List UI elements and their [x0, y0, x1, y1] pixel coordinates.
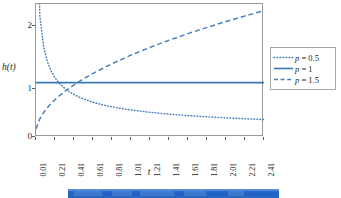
x-tick-mark	[168, 137, 169, 140]
y-axis-label: h(t)	[2, 62, 16, 72]
titlebar-segment	[184, 191, 206, 196]
legend-item-1[interactable]: p = 1	[273, 63, 332, 74]
x-axis-label-text: t	[148, 167, 151, 177]
y-axis-label-paren-close: )	[13, 62, 16, 72]
x-axis-label: t	[35, 167, 263, 177]
legend-label-2-value: = 1.5	[299, 75, 319, 85]
titlebar-segment	[140, 191, 174, 196]
curve-p-0point5	[36, 4, 264, 120]
legend-swatch-dashed-icon	[273, 75, 294, 84]
x-tick-mark	[206, 137, 207, 140]
titlebar-segment	[74, 191, 102, 196]
plot-curves	[36, 4, 264, 137]
titlebar-segment	[112, 191, 132, 196]
titlebar-segment	[228, 191, 244, 196]
legend-label-1: p = 1	[295, 64, 313, 74]
x-tick-label: 2.41	[267, 163, 276, 177]
legend-label-1-value: = 1	[299, 64, 312, 74]
window-titlebar-strip[interactable]	[68, 189, 279, 198]
legend-item-0[interactable]: p = 0.5	[273, 52, 332, 63]
plot-area	[35, 3, 263, 136]
x-tick-mark	[244, 137, 245, 140]
x-tick-mark	[73, 137, 74, 140]
x-tick-mark	[149, 137, 150, 140]
legend-label-0: p = 0.5	[295, 53, 319, 63]
x-tick-mark	[54, 137, 55, 140]
x-tick-mark	[225, 137, 226, 140]
y-tick-label-0: 0	[12, 132, 32, 141]
y-tick-label-1: 1	[12, 84, 32, 93]
chart-legend: p = 0.5 p = 1 p = 1.5	[270, 47, 336, 90]
legend-label-2: p = 1.5	[295, 75, 319, 85]
curve-p-1point5	[36, 11, 264, 129]
x-tick-mark	[263, 137, 264, 140]
y-tick-label-2: 2	[12, 21, 32, 30]
legend-item-2[interactable]: p = 1.5	[273, 74, 332, 85]
x-tick-mark	[92, 137, 93, 140]
x-tick-mark	[130, 137, 131, 140]
legend-label-0-value: = 0.5	[299, 53, 319, 63]
legend-swatch-dotted-icon	[273, 53, 294, 62]
chart-figure: h(t) 0 1 2 0.010.210.410.610.811.011.211…	[0, 0, 341, 198]
x-tick-mark	[35, 137, 36, 140]
x-tick-mark	[111, 137, 112, 140]
legend-swatch-solid-icon	[273, 64, 294, 73]
x-tick-mark	[187, 137, 188, 140]
